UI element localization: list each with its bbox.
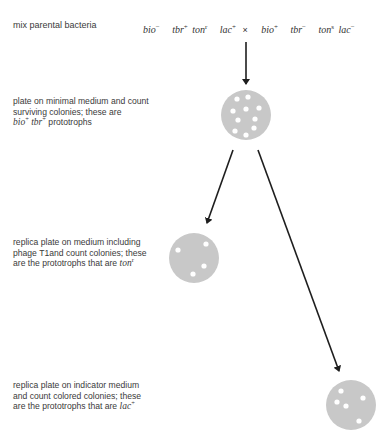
arrow-to-indicator-plate-icon xyxy=(258,150,339,371)
indicator-medium-plate xyxy=(326,380,376,430)
arrow-to-phage-plate-icon xyxy=(207,150,233,223)
phage-t1-plate xyxy=(169,233,219,283)
flow-diagram xyxy=(0,0,386,442)
minimal-medium-plate xyxy=(221,90,271,140)
